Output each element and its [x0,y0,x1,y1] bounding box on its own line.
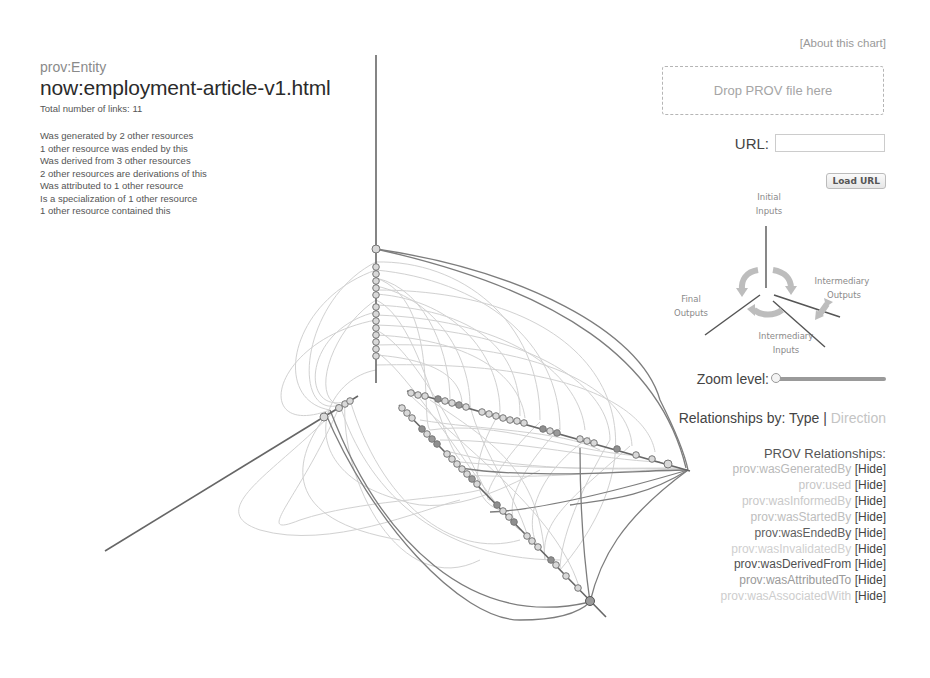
links-dark [325,249,688,620]
relationships-by-label: Relationships by: [679,410,786,426]
drop-zone-label: Drop PROV file here [714,83,833,98]
drop-prov-file-zone[interactable]: Drop PROV file here [662,66,884,115]
zoom-control: Zoom level: [697,371,886,387]
svg-text:Outputs: Outputs [827,290,862,300]
legend-intermediary-outputs: Intermediary [815,276,870,286]
relationships-by-type[interactable]: Type [789,410,819,426]
hide-toggle[interactable]: [Hide] [855,573,886,587]
relationship-name: prov:wasInformedBy [742,494,851,508]
svg-text:Inputs: Inputs [756,206,783,216]
relationship-name: prov:used [799,478,852,492]
axis-legend-diagram: Initial Inputs Intermediary Outputs Fina… [670,186,900,366]
url-label: URL: [735,135,769,152]
relationship-name: prov:wasEndedBy [755,526,852,540]
zoom-slider-thumb[interactable] [771,373,781,383]
relationship-name: prov:wasInvalidatedBy [731,542,851,556]
prov-relationship-row: prov:wasGeneratedBy [Hide] [721,462,886,478]
axes [105,55,690,617]
hide-toggle[interactable]: [Hide] [855,478,886,492]
prov-relationship-row: prov:wasDerivedFrom [Hide] [721,557,886,573]
prov-relationship-row: prov:wasAssociatedWith [Hide] [721,589,886,605]
prov-relationship-row: prov:wasStartedBy [Hide] [721,510,886,526]
relationships-by-toggle: Relationships by: Type | Direction [679,410,886,426]
prov-relationship-row: prov:wasEndedBy [Hide] [721,526,886,542]
hide-toggle[interactable]: [Hide] [855,526,886,540]
svg-text:Inputs: Inputs [773,345,800,355]
hide-toggle[interactable]: [Hide] [855,589,886,603]
url-input[interactable] [775,134,885,152]
hide-toggle[interactable]: [Hide] [855,510,886,524]
hide-toggle[interactable]: [Hide] [855,557,886,571]
prov-relationships-legend: PROV Relationships: prov:wasGeneratedBy … [721,445,886,605]
prov-relationship-row: prov:wasAttributedTo [Hide] [721,573,886,589]
legend-initial-inputs: Initial [757,192,781,202]
prov-relationship-row: prov:used [Hide] [721,478,886,494]
prov-relationships-title: PROV Relationships: [721,445,886,462]
separator: | [823,410,827,426]
hide-toggle[interactable]: [Hide] [855,542,886,556]
final-outputs-axis [105,396,358,551]
nodes [320,245,672,606]
zoom-slider[interactable] [774,377,886,381]
zoom-label: Zoom level: [697,371,769,387]
prov-relationship-row: prov:wasInformedBy [Hide] [721,494,886,510]
svg-text:Outputs: Outputs [674,308,709,318]
hide-toggle[interactable]: [Hide] [855,462,886,476]
relationships-by-direction[interactable]: Direction [831,410,886,426]
hide-toggle[interactable]: [Hide] [855,494,886,508]
relationship-name: prov:wasAttributedTo [739,573,851,587]
relationship-name: prov:wasDerivedFrom [734,557,851,571]
about-chart-link[interactable]: [About this chart] [800,37,886,49]
legend-intermediary-inputs: Intermediary [759,331,814,341]
relationship-name: prov:wasAssociatedWith [721,589,852,603]
relationship-name: prov:wasStartedBy [751,510,852,524]
url-row: URL: [735,134,885,152]
prov-relationship-row: prov:wasInvalidatedBy [Hide] [721,542,886,558]
legend-final-outputs: Final [681,294,701,304]
relationship-name: prov:wasGeneratedBy [733,462,852,476]
